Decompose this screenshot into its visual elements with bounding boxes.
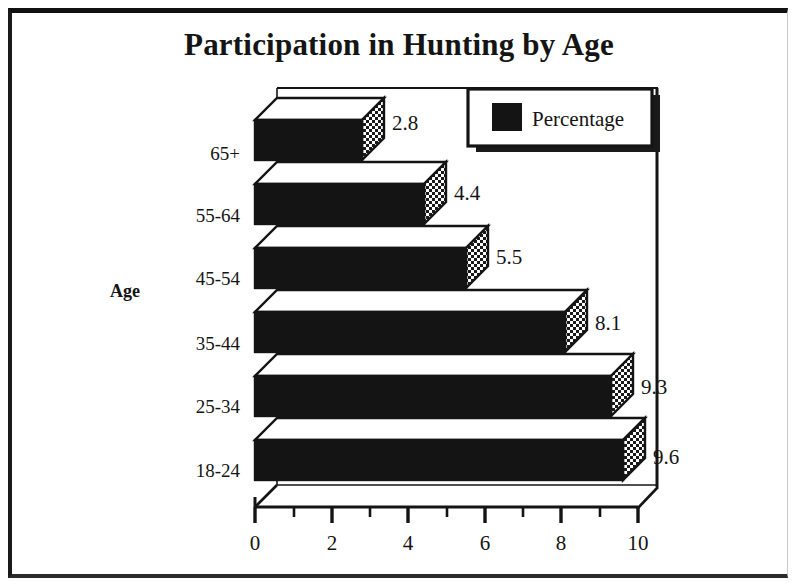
x-tick-label-0: 0 xyxy=(250,531,261,555)
chart-legend: Percentage xyxy=(468,89,660,152)
bar-chart: Participation in Hunting by Age xyxy=(0,0,798,586)
y-tick-label-55-64: 55-64 xyxy=(196,205,241,226)
y-tick-label-25-34: 25-34 xyxy=(196,396,241,417)
bar-45-54 xyxy=(255,226,488,288)
figure-page: Participation in Hunting by Age xyxy=(0,0,798,586)
bar-55-64 xyxy=(255,162,446,224)
y-axis-labels: 65+ 55-64 45-54 35-44 25-34 18-24 xyxy=(196,143,241,481)
legend-swatch-percentage xyxy=(492,103,522,131)
data-label-45-54: 5.5 xyxy=(496,245,522,269)
y-axis-title: Age xyxy=(110,281,140,301)
bar-35-44 xyxy=(255,290,587,352)
x-tick-label-4: 4 xyxy=(403,531,414,555)
x-tick-label-2: 2 xyxy=(327,531,338,555)
y-tick-label-18-24: 18-24 xyxy=(196,460,241,481)
bar-25-34 xyxy=(255,354,633,416)
y-tick-label-35-44: 35-44 xyxy=(196,333,241,354)
bar-65plus xyxy=(255,98,384,160)
legend-label-percentage: Percentage xyxy=(532,107,624,131)
data-label-65plus: 2.8 xyxy=(392,111,418,135)
x-axis-ticks xyxy=(255,507,638,523)
x-tick-label-8: 8 xyxy=(556,531,567,555)
data-label-18-24: 9.6 xyxy=(653,445,679,469)
data-label-25-34: 9.3 xyxy=(641,375,667,399)
y-tick-label-45-54: 45-54 xyxy=(196,268,241,289)
x-tick-label-10: 10 xyxy=(628,531,649,555)
y-tick-label-65plus: 65+ xyxy=(210,143,240,164)
data-label-35-44: 8.1 xyxy=(595,311,621,335)
x-tick-label-6: 6 xyxy=(480,531,491,555)
x-axis-labels: 0 2 4 6 8 10 xyxy=(250,531,649,555)
data-label-55-64: 4.4 xyxy=(454,181,481,205)
chart-title: Participation in Hunting by Age xyxy=(184,27,614,62)
bar-18-24 xyxy=(255,418,645,480)
